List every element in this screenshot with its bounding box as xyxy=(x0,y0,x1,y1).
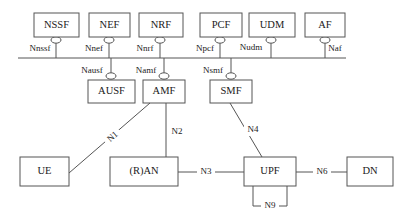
sbi-label-namf: Namf xyxy=(136,65,157,75)
architecture-svg: NSSF NEF NRF PCF UDM AF xyxy=(0,0,414,222)
sbi-circle-amf xyxy=(159,73,169,79)
sbi-circle-nef xyxy=(104,37,114,43)
sbi-label-nnrf: Nnrf xyxy=(137,43,154,53)
sbi-label-nausf: Nausf xyxy=(81,65,103,75)
sbi-circle-smf xyxy=(226,73,236,79)
node-udm-label: UDM xyxy=(260,19,285,30)
sbi-circle-pcf xyxy=(215,37,225,43)
ref-label-n3-group: N3 xyxy=(197,166,215,178)
node-ran[interactable]: (R)AN xyxy=(110,157,178,186)
node-ausf[interactable]: AUSF xyxy=(88,80,135,103)
reference-point-lines xyxy=(69,103,347,206)
ref-label-n6-group: N6 xyxy=(313,166,331,178)
ref-label-n3: N3 xyxy=(201,166,212,176)
node-ue[interactable]: UE xyxy=(20,157,69,186)
sbi-label-nnssf: Nnssf xyxy=(29,43,50,53)
node-dn-label: DN xyxy=(362,165,378,176)
middle-row-sbi-labels: Nausf Namf Nsmf xyxy=(81,65,223,75)
node-af-label: AF xyxy=(318,19,332,30)
node-udm[interactable]: UDM xyxy=(249,13,295,37)
node-ausf-label: AUSF xyxy=(98,85,125,96)
node-upf-label: UPF xyxy=(260,165,279,176)
sbi-label-nnef: Nnef xyxy=(85,43,103,53)
ref-label-n9-group: N9 xyxy=(261,200,279,212)
node-ue-label: UE xyxy=(38,165,52,176)
node-nrf[interactable]: NRF xyxy=(139,13,183,37)
sbi-circle-ausf xyxy=(106,73,116,79)
node-nef[interactable]: NEF xyxy=(89,13,130,37)
node-amf-label: AMF xyxy=(153,85,176,96)
5g-architecture-diagram: NSSF NEF NRF PCF UDM AF xyxy=(0,0,414,222)
ref-label-n2: N2 xyxy=(172,126,183,136)
node-dn[interactable]: DN xyxy=(347,157,393,186)
ref-label-n2-group: N2 xyxy=(168,126,186,138)
ref-label-n6: N6 xyxy=(317,166,328,176)
node-nssf[interactable]: NSSF xyxy=(34,13,79,37)
sbi-circle-nssf xyxy=(51,37,61,43)
ref-label-n9: N9 xyxy=(265,200,276,210)
ref-label-n4-group: N4 xyxy=(244,124,262,136)
node-amf[interactable]: AMF xyxy=(143,80,185,103)
ref-label-n4: N4 xyxy=(248,124,259,134)
node-nrf-label: NRF xyxy=(151,19,172,30)
sbi-label-npcf: Npcf xyxy=(196,43,214,53)
node-pcf-label: PCF xyxy=(212,19,231,30)
node-nssf-label: NSSF xyxy=(44,19,69,30)
node-ran-label: (R)AN xyxy=(129,165,159,177)
sbi-label-naf: Naf xyxy=(328,43,342,53)
top-row-sbi-labels: Nnssf Nnef Nnrf Npcf Nudm Naf xyxy=(29,42,341,53)
sbi-circle-udm xyxy=(266,37,276,43)
node-upf[interactable]: UPF xyxy=(244,157,296,186)
sbi-label-nudm: Nudm xyxy=(240,42,263,52)
node-smf-label: SMF xyxy=(220,85,241,96)
node-pcf[interactable]: PCF xyxy=(200,13,242,37)
sbi-circle-nrf xyxy=(155,37,165,43)
node-nef-label: NEF xyxy=(100,19,120,30)
ref-label-n1-group: N1 xyxy=(102,127,123,148)
node-af[interactable]: AF xyxy=(305,13,345,37)
sbi-label-nsmf: Nsmf xyxy=(203,65,223,75)
top-row-nodes: NSSF NEF NRF PCF UDM AF xyxy=(34,13,345,37)
middle-row-nodes: AUSF AMF SMF xyxy=(88,80,252,103)
node-smf[interactable]: SMF xyxy=(210,80,252,103)
